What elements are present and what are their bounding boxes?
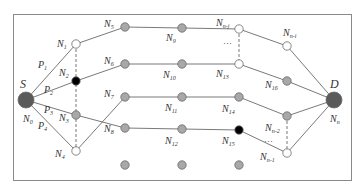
node-destination <box>326 92 342 108</box>
node-n13 <box>235 60 243 68</box>
node-n8 <box>121 124 129 132</box>
node-n1 <box>72 40 80 48</box>
ellipsis-top: … <box>223 36 232 46</box>
node-n2 <box>72 77 80 85</box>
node-n16 <box>283 77 291 85</box>
node-n6 <box>121 60 129 68</box>
multipath-network-diagram: S D N0 Nn P1 P2 P3 P4 N1 N2 N3 N4 N5 N6 … <box>0 0 361 192</box>
node-source <box>18 92 34 108</box>
ellipsis-bottom: … <box>264 134 273 144</box>
node-nn-i <box>283 42 291 50</box>
label-source: S <box>20 77 26 91</box>
node-n12 <box>178 125 186 133</box>
node-n4 <box>72 147 80 155</box>
node-spare-3 <box>235 161 243 169</box>
node-n14 <box>235 93 243 101</box>
node-n7 <box>121 93 129 101</box>
node-n10 <box>178 60 186 68</box>
node-nn-1 <box>283 149 291 157</box>
node-spare-2 <box>178 161 186 169</box>
node-n9 <box>178 24 186 32</box>
node-n11 <box>178 93 186 101</box>
node-nn-j <box>235 25 243 33</box>
label-destination: D <box>329 77 339 91</box>
node-n15 <box>235 126 243 134</box>
node-n5 <box>121 23 129 31</box>
node-n3 <box>72 111 80 119</box>
node-spare-1 <box>121 161 129 169</box>
node-nn-2 <box>283 112 291 120</box>
